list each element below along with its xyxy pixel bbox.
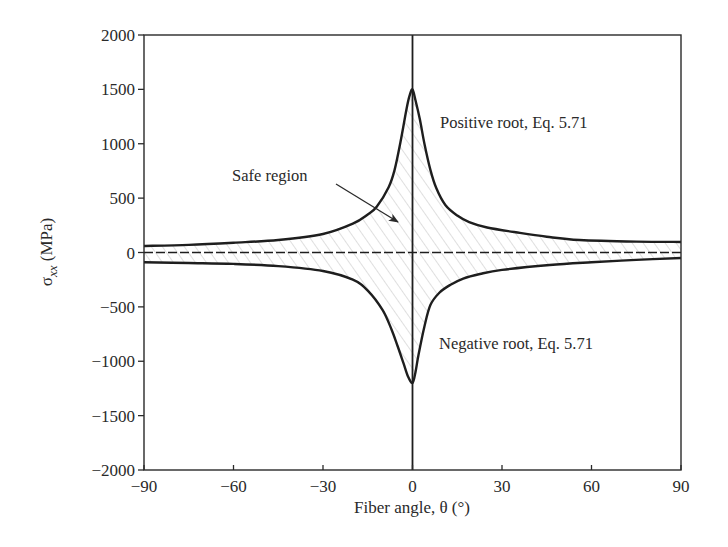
y-tick-label: −2000	[91, 461, 135, 480]
x-tick-label: 30	[494, 477, 511, 496]
negative-root-label: Negative root, Eq. 5.71	[439, 334, 593, 353]
positive-root-label: Positive root, Eq. 5.71	[440, 113, 588, 132]
x-tick-label: −60	[220, 477, 247, 496]
y-tick-label: 1000	[101, 135, 135, 154]
x-axis-title: Fiber angle, θ (°)	[354, 498, 470, 517]
y-tick-label: 500	[110, 189, 136, 208]
x-tick-label: −90	[131, 477, 158, 496]
y-tick-label: −1500	[91, 407, 135, 426]
x-tick-label: 90	[673, 477, 690, 496]
x-tick-label: 60	[583, 477, 600, 496]
plot-area	[144, 35, 681, 470]
x-tick-label: −30	[310, 477, 337, 496]
y-axis-title: σxx (MPa)	[37, 218, 60, 286]
chart: 2000150010005000−500−1000−1500−2000 −90−…	[0, 0, 728, 547]
y-tick-label: 0	[127, 244, 136, 263]
safe-region-label: Safe region	[232, 166, 308, 185]
x-tick-label: 0	[408, 477, 417, 496]
y-axis: 2000150010005000−500−1000−1500−2000	[91, 26, 144, 480]
y-tick-label: −500	[100, 298, 135, 317]
y-tick-label: 1500	[101, 80, 135, 99]
y-tick-label: −1000	[91, 352, 135, 371]
y-tick-label: 2000	[101, 26, 135, 45]
